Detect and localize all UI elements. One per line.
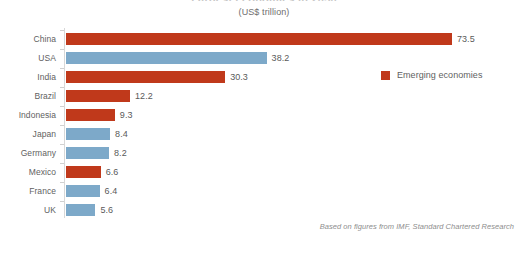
bar-row: Indonesia9.3 — [0, 106, 528, 125]
bar-value-label: 6.6 — [106, 167, 119, 177]
axis-tick — [60, 49, 64, 50]
bar-emerging — [66, 109, 115, 121]
category-label: USA — [0, 53, 56, 63]
bar-emerging — [66, 166, 101, 178]
legend-swatch-emerging — [381, 71, 390, 80]
axis-tick — [60, 144, 64, 145]
axis-tick — [60, 87, 64, 88]
category-label: France — [0, 186, 56, 196]
category-label: UK — [0, 205, 56, 215]
bar-value-label: 8.2 — [114, 148, 127, 158]
bar-developed — [66, 185, 100, 197]
category-label: Japan — [0, 129, 56, 139]
category-label: Mexico — [0, 167, 56, 177]
category-label: India — [0, 72, 56, 82]
legend-label-emerging: Emerging economies — [397, 70, 482, 80]
category-label: Indonesia — [0, 110, 56, 120]
axis-tick — [60, 30, 64, 31]
bar-developed — [66, 147, 109, 159]
bar-value-label: 5.6 — [100, 205, 113, 215]
axis-tick — [60, 163, 64, 164]
axis-tick — [60, 68, 64, 69]
bar-chart-figure: Largest economies in 2030 (US$ trillion)… — [0, 0, 528, 254]
chart-legend: Emerging economies — [381, 70, 482, 80]
source-note: Based on figures from IMF, Standard Char… — [320, 222, 514, 231]
axis-tick — [60, 125, 64, 126]
bar-row: Brazil12.2 — [0, 87, 528, 106]
bar-value-label: 73.5 — [457, 34, 475, 44]
axis-tick — [60, 106, 64, 107]
bar-value-label: 30.3 — [230, 72, 248, 82]
bar-value-label: 8.4 — [115, 129, 128, 139]
category-label: Germany — [0, 148, 56, 158]
bar-value-label: 38.2 — [272, 53, 290, 63]
bar-row: China73.5 — [0, 30, 528, 49]
bar-row: Germany8.2 — [0, 144, 528, 163]
bar-emerging — [66, 71, 225, 83]
bar-row: Mexico6.6 — [0, 163, 528, 182]
category-label: China — [0, 34, 56, 44]
bar-emerging — [66, 33, 452, 45]
bar-developed — [66, 204, 95, 216]
chart-subtitle: (US$ trillion) — [0, 7, 528, 17]
bar-developed — [66, 128, 110, 140]
axis-tick — [60, 182, 64, 183]
axis-tick — [60, 201, 64, 202]
bar-developed — [66, 52, 267, 64]
bar-row: UK5.6 — [0, 201, 528, 220]
bar-row: France6.4 — [0, 182, 528, 201]
bar-emerging — [66, 90, 130, 102]
bar-value-label: 12.2 — [135, 91, 153, 101]
category-label: Brazil — [0, 91, 56, 101]
bar-row: Japan8.4 — [0, 125, 528, 144]
bar-value-label: 9.3 — [120, 110, 133, 120]
bar-row: USA38.2 — [0, 49, 528, 68]
chart-title: Largest economies in 2030 — [0, 0, 528, 1]
plot-area: China73.5USA38.2India30.3Brazil12.2Indon… — [0, 28, 528, 218]
bar-value-label: 6.4 — [105, 186, 118, 196]
